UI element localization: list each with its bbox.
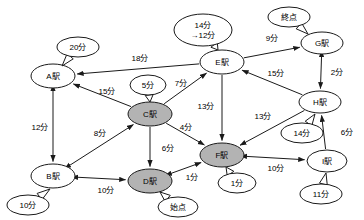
graph-node-h[interactable]: H駅 — [299, 91, 341, 113]
callout-G: 終点 — [268, 7, 310, 34]
graph-node-e[interactable]: E駅 — [200, 50, 244, 74]
node-label: H駅 — [313, 98, 327, 107]
node-label: E駅 — [215, 58, 228, 67]
edge-weight-label: 10分 — [268, 164, 285, 173]
graph-node-f[interactable]: F駅 — [200, 143, 244, 167]
callout-text: 20分 — [70, 43, 87, 52]
callout-D: 始点 — [158, 192, 198, 217]
callout-C: 5分 — [130, 75, 166, 102]
edge-weight-label: 13分 — [255, 112, 272, 121]
edge-weight-label: 10分 — [98, 186, 115, 195]
callout-E: 14分→12分 — [174, 14, 232, 50]
callout-H: 14分 — [281, 114, 323, 143]
graph-node-d[interactable]: D駅 — [128, 169, 172, 193]
callout-F: 1分 — [218, 167, 256, 193]
callout-text: 14分 — [195, 21, 212, 30]
graph-node-a[interactable]: A駅 — [31, 64, 75, 88]
edge-weight-label: 2分 — [331, 68, 343, 77]
callout-text: 10分 — [20, 201, 37, 210]
graph-edge — [77, 64, 199, 74]
callout-text: 11分 — [313, 190, 329, 199]
node-label: C駅 — [143, 110, 157, 119]
edge-weight-label: 13分 — [198, 102, 215, 111]
graph-edge — [77, 177, 125, 179]
callout-text: 14分 — [294, 129, 311, 138]
edge-weight-label: 12分 — [32, 123, 49, 132]
callout-A: 20分 — [57, 37, 99, 66]
graph-edge — [320, 56, 321, 88]
node-label: G駅 — [315, 39, 329, 48]
callout-text: 終点 — [281, 12, 297, 22]
graph-node-c[interactable]: C駅 — [128, 102, 172, 126]
graph-svg: 18分15分7分12分8分6分10分4分13分13分1分9分15分2分6分10分… — [0, 0, 364, 220]
edge-weight-label: 18分 — [132, 54, 149, 63]
graph-node-g[interactable]: G駅 — [301, 32, 343, 54]
graph-edge — [244, 47, 300, 58]
graph-diagram-canvas: 18分15分7分12分8分6分10分4分13分13分1分9分15分2分6分10分… — [0, 0, 364, 220]
callout-tail — [319, 173, 327, 185]
callout-tail — [145, 95, 153, 102]
graph-node-i[interactable]: I駅 — [307, 150, 347, 172]
edge-weight-label: 15分 — [99, 87, 116, 96]
edge-weight-label: 7分 — [175, 79, 187, 88]
node-label: A駅 — [46, 72, 59, 81]
node-label: D駅 — [143, 177, 157, 186]
edge-weight-label: 9分 — [266, 34, 278, 43]
callout-text: 1分 — [231, 179, 243, 188]
edge-weight-label: 4分 — [180, 123, 192, 132]
graph-node-b[interactable]: B駅 — [31, 164, 75, 188]
node-label: F駅 — [216, 151, 229, 160]
graph-edge — [246, 156, 304, 159]
callout-text: 始点 — [170, 202, 186, 212]
edge-labels-layer: 18分15分7分12分8分6分10分4分13分13分1分9分15分2分6分10分 — [32, 34, 354, 195]
callout-text: →12分 — [191, 31, 216, 40]
callout-I: 11分 — [300, 173, 342, 204]
edges-layer — [53, 47, 326, 180]
callout-text: 5分 — [142, 81, 154, 90]
callout-B: 10分 — [7, 189, 50, 215]
edge-weight-label: 6分 — [162, 144, 174, 153]
edge-weight-label: 8分 — [94, 129, 106, 138]
edge-weight-label: 15分 — [268, 69, 285, 78]
edge-weight-label: 1分 — [186, 173, 198, 182]
node-label: B駅 — [46, 172, 59, 181]
edge-weight-label: 6分 — [341, 128, 353, 137]
node-label: I駅 — [322, 157, 332, 166]
